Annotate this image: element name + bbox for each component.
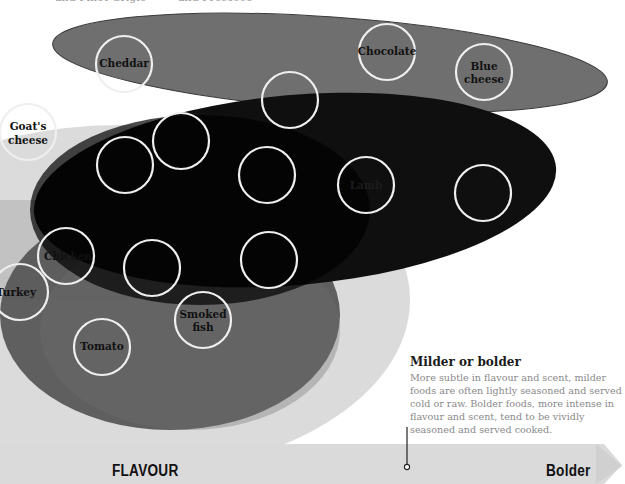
info-body: More subtle in flavour and scent, milder…: [410, 371, 625, 436]
food-label-blue-cheese-1: Blue: [470, 60, 497, 72]
food-label-goats-cheese-1: Goat's: [10, 120, 47, 132]
black-ellipse-inner: [30, 115, 370, 305]
food-label-chocolate: Chocolate: [358, 45, 417, 57]
pointer-dot: [404, 464, 409, 469]
info-title: Milder or bolder: [410, 355, 625, 369]
axis-label-flavour: FLAVOUR: [112, 462, 179, 480]
food-label-smoked-fish-2: fish: [192, 321, 214, 333]
food-label-chicken: Chicken: [44, 250, 92, 262]
food-label-lamb: Lamb: [350, 179, 383, 191]
food-label-goats-cheese-2: cheese: [8, 134, 48, 146]
info-box: Milder or bolder More subtle in flavour …: [410, 355, 625, 436]
food-label-cheddar: Cheddar: [99, 57, 149, 69]
food-label-turkey: Turkey: [0, 286, 37, 298]
food-label-smoked-fish-1: Smoked: [180, 308, 228, 320]
flavour-axis-arrow: [0, 444, 622, 484]
food-label-blue-cheese-2: cheese: [464, 73, 504, 85]
food-label-tomato: Tomato: [80, 340, 123, 352]
axis-label-bolder: Bolder: [546, 462, 591, 480]
